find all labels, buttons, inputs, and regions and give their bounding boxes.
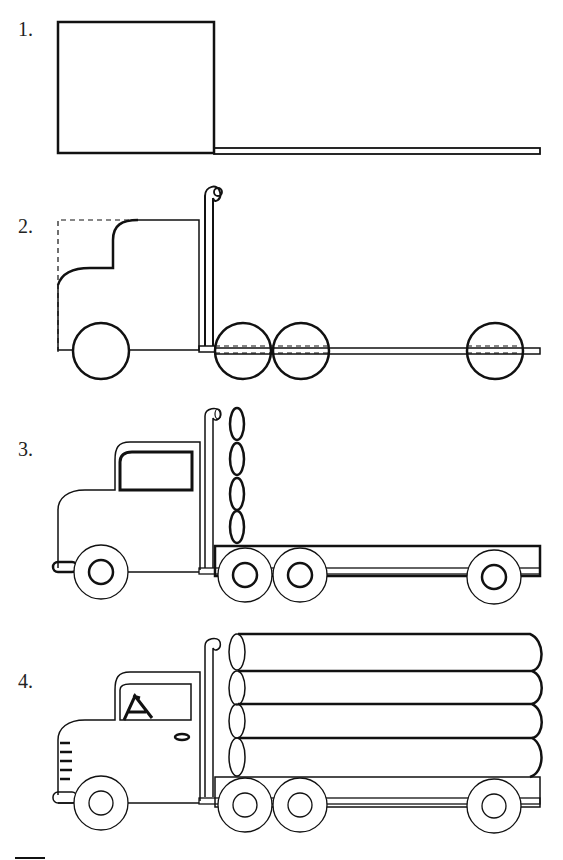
exhaust-stack bbox=[205, 187, 220, 346]
log-4 bbox=[238, 738, 542, 777]
cab-hood-curve bbox=[58, 220, 138, 285]
log-end-1 bbox=[230, 408, 244, 440]
log-end-2 bbox=[229, 671, 245, 705]
step-4-drawing bbox=[53, 634, 542, 833]
drawing-canvas bbox=[0, 0, 563, 860]
rear-wheel-1 bbox=[218, 778, 272, 832]
log-3 bbox=[238, 704, 542, 738]
step-1-drawing bbox=[58, 22, 540, 154]
grille-lines bbox=[60, 743, 72, 779]
rear-wheel-2 bbox=[273, 323, 329, 379]
log-end-4 bbox=[230, 511, 244, 543]
front-wheel bbox=[74, 545, 128, 599]
front-wheel bbox=[74, 776, 128, 830]
step-2-drawing bbox=[58, 187, 540, 379]
cab-outline bbox=[58, 442, 200, 570]
rear-wheel-2 bbox=[273, 778, 327, 832]
front-wheel bbox=[73, 323, 129, 379]
exhaust-stack bbox=[205, 639, 220, 797]
log-end-4 bbox=[229, 738, 245, 776]
step-3-drawing bbox=[53, 408, 540, 604]
log-end-3 bbox=[230, 478, 244, 510]
trailer-wheel bbox=[467, 550, 521, 604]
log-end-2 bbox=[230, 443, 244, 475]
log-1 bbox=[238, 634, 542, 671]
cab-box bbox=[58, 22, 214, 153]
trailer-wheel bbox=[467, 779, 521, 833]
exhaust-stack bbox=[205, 409, 220, 568]
stack-base bbox=[199, 346, 215, 352]
driver-figure bbox=[124, 696, 152, 720]
chassis-rail bbox=[214, 148, 540, 154]
log-2 bbox=[238, 671, 542, 704]
rear-wheel-1 bbox=[215, 323, 271, 379]
log-end-3 bbox=[229, 704, 245, 738]
door-handle bbox=[175, 734, 189, 740]
trailer-wheel bbox=[467, 323, 523, 379]
cab-outline bbox=[58, 672, 200, 801]
cab-outline bbox=[58, 220, 199, 350]
log-stack bbox=[229, 634, 542, 777]
cab-window bbox=[120, 452, 192, 490]
rear-wheel-2 bbox=[273, 548, 327, 602]
rear-wheel-1 bbox=[218, 548, 272, 602]
log-end-1 bbox=[229, 634, 245, 670]
